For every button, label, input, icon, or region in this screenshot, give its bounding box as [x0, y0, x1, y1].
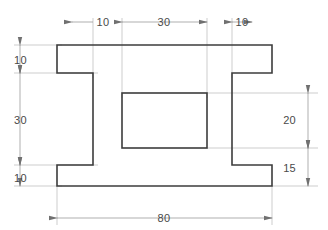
dim-label-right-upper-20: 20: [283, 114, 296, 126]
dim-label-left-middle-30: 30: [14, 114, 27, 126]
dim-label-right-lower-15: 15: [283, 162, 296, 174]
drawing-background: [0, 0, 328, 230]
dim-label-left-bottom-10: 10: [14, 172, 27, 184]
dim-label-bottom-overall-80: 80: [158, 212, 171, 224]
dim-label-top-center-30: 30: [158, 16, 171, 28]
technical-drawing-canvas: 10 30 10 10 30 10 20 15 80: [0, 0, 328, 230]
dim-label-top-left-10: 10: [97, 16, 110, 28]
dim-label-left-top-10: 10: [14, 54, 27, 66]
dim-label-top-right-10: 10: [236, 16, 249, 28]
